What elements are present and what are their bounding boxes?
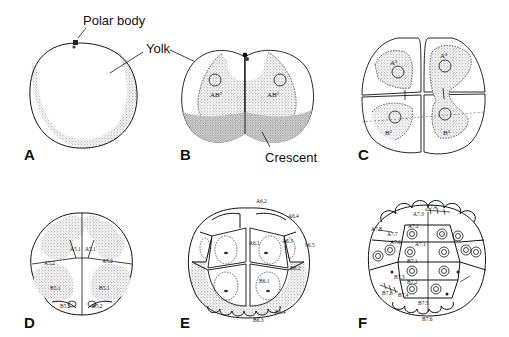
panel-b: AB² AB² Crescent B bbox=[170, 50, 317, 165]
cell-label-a77: A7.7 bbox=[387, 231, 398, 237]
panel-a: Polar body Yolk A bbox=[24, 13, 171, 163]
cell-label-a3-right: A³ bbox=[440, 52, 447, 60]
panel-f: A7.4 A7.3 A7.2 A7.1 A7.8 A7.7 A7.6 B7.1 … bbox=[358, 200, 486, 331]
cell-label-b74: B7.4 bbox=[398, 292, 409, 298]
panel-letter-e: E bbox=[180, 314, 190, 331]
cell-label-a76: A7.6 bbox=[390, 239, 401, 245]
polar-body-label: Polar body bbox=[83, 13, 146, 28]
cell-label-a73: A7.3 bbox=[413, 211, 424, 217]
cell-label-a52-right: A5.2 bbox=[102, 258, 113, 264]
cell-label-b3-left: B³ bbox=[385, 129, 392, 137]
cell-label-a63: A6.3 bbox=[282, 238, 293, 244]
cell-label-b65: b6.5 bbox=[305, 242, 315, 248]
cell-label-b75: B7.5 bbox=[418, 300, 429, 306]
cell-label-a51-right: A5.1 bbox=[85, 246, 96, 252]
panel-d: A5.1 A5.1 A5.2 A5.2 B5.1 B5.1 B5.2 B5.2 … bbox=[24, 213, 132, 331]
cell-label-b3-right: B³ bbox=[443, 129, 450, 137]
cell-label-b76: B7.6 bbox=[422, 316, 433, 322]
panel-letter-a: A bbox=[24, 146, 35, 163]
cell-label-a3-left: A³ bbox=[390, 59, 397, 67]
cell-label-a78: A7.8 bbox=[371, 226, 382, 232]
cell-label-ab2-right: AB² bbox=[267, 91, 279, 99]
cell-label-b51-right: B5.1 bbox=[99, 285, 110, 291]
cell-label-b72: B7.2 bbox=[407, 279, 418, 285]
cell-label-a61: A6.1 bbox=[249, 240, 260, 246]
cell-label-a74: A7.4 bbox=[426, 204, 437, 210]
cell-label-a62: A6.2 bbox=[256, 198, 267, 204]
cell-label-a71: A7.1 bbox=[415, 241, 426, 247]
cell-label-b52-left: B5.2 bbox=[60, 303, 71, 309]
cell-label-b63: B6.3 bbox=[253, 317, 264, 323]
embryo-cleavage-figure: Polar body Yolk A AB² AB² Crescent B bbox=[0, 0, 509, 337]
panel-letter-f: F bbox=[358, 314, 367, 331]
crescent-label: Crescent bbox=[265, 150, 317, 165]
cell-label-b52-right: B5.2 bbox=[92, 303, 103, 309]
cell-label-b71: B7.1 bbox=[407, 258, 418, 264]
cell-label-b51-left: B5.1 bbox=[50, 285, 61, 291]
cell-label-a51-left: A5.1 bbox=[70, 246, 81, 252]
cell-label-a64: A6.4 bbox=[288, 213, 299, 219]
cell-label-a52-left: A5.2 bbox=[44, 260, 55, 266]
panel-letter-c: C bbox=[358, 146, 369, 163]
yolk-label: Yolk bbox=[146, 41, 171, 56]
polar-body-icon bbox=[73, 40, 78, 45]
cell-label-b61: B6.1 bbox=[259, 278, 270, 284]
panel-letter-b: B bbox=[180, 146, 191, 163]
cell-label-b78: B7.8 bbox=[382, 290, 393, 296]
panel-letter-d: D bbox=[24, 314, 35, 331]
cell-label-a72: A7.2 bbox=[408, 223, 419, 229]
panel-c: A³ A³ B³ B³ C bbox=[358, 38, 485, 163]
cell-label-b62: B6.2 bbox=[290, 265, 301, 271]
cell-label-b73: B7.3 bbox=[394, 274, 405, 280]
cell-label-ab2-left: AB² bbox=[210, 91, 222, 99]
panel-e: A6.2 A6.4 A6.1 A6.3 b6.5 B6.2 B6.1 B6.4 … bbox=[180, 198, 315, 331]
cell-label-b64: B6.4 bbox=[275, 309, 286, 315]
